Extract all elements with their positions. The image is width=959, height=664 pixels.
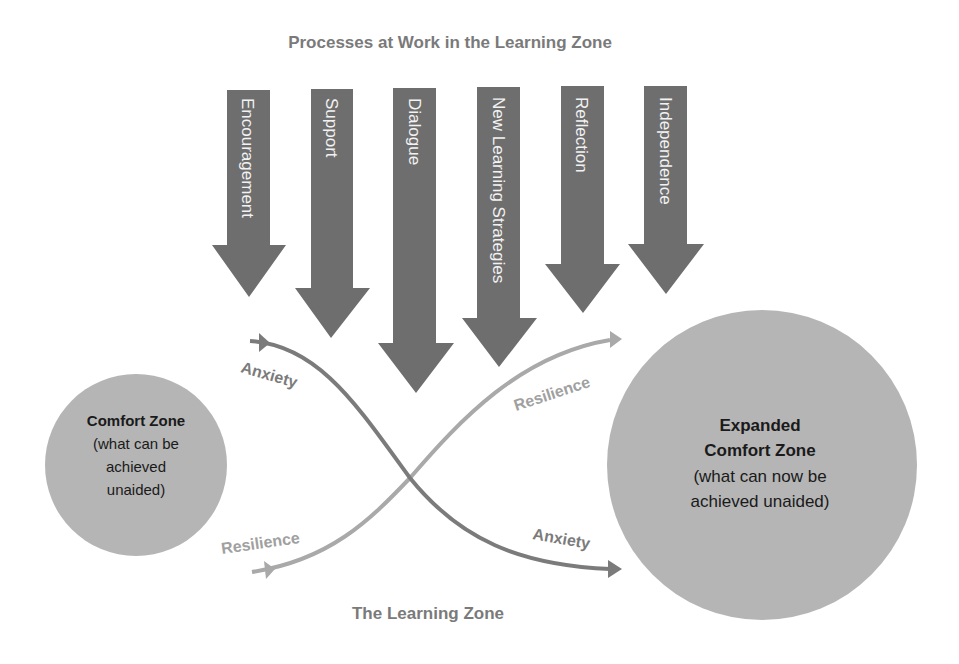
comfort-zone-circle: Comfort Zone (what can be achieved unaid… <box>45 374 227 556</box>
resilience-arrowhead-icon <box>610 331 622 348</box>
process-arrow-independence: Independence <box>628 86 704 294</box>
process-label: Independence <box>656 97 675 205</box>
expanded-zone-desc-1: (what can now be <box>693 467 826 486</box>
process-label: Dialogue <box>405 98 424 165</box>
process-arrow-dialogue: Dialogue <box>378 88 454 393</box>
learning-zone-label: The Learning Zone <box>352 604 504 623</box>
process-label: Encouragement <box>238 98 257 218</box>
process-label: New Learning Strategies <box>489 97 508 283</box>
comfort-zone-desc-1: (what can be <box>93 435 179 452</box>
resilience-start-marker-icon <box>264 561 275 579</box>
process-arrow-reflection: Reflection <box>545 86 620 313</box>
expanded-zone-desc-2: achieved unaided) <box>691 492 830 511</box>
resilience-end-label: Resilience <box>512 373 593 414</box>
resilience-start-label: Resilience <box>220 529 301 557</box>
process-arrow-support: Support <box>295 89 370 338</box>
anxiety-end-label: Anxiety <box>531 525 591 552</box>
expanded-zone-title-1: Expanded <box>719 416 800 435</box>
expanded-comfort-zone-circle: Expanded Comfort Zone (what can now be a… <box>607 310 917 620</box>
anxiety-start-label: Anxiety <box>239 359 299 391</box>
diagram-title: Processes at Work in the Learning Zone <box>288 33 612 52</box>
learning-zone-diagram: Processes at Work in the Learning Zone E… <box>0 0 959 664</box>
anxiety-arrowhead-icon <box>608 560 622 578</box>
comfort-zone-desc-3: unaided) <box>107 481 165 498</box>
process-arrow-new-learning-strategies: New Learning Strategies <box>462 87 537 367</box>
process-label: Support <box>322 98 341 158</box>
comfort-zone-desc-2: achieved <box>106 458 166 475</box>
anxiety-start-marker-icon <box>259 333 270 352</box>
process-arrow-encouragement: Encouragement <box>212 90 286 297</box>
expanded-zone-title-2: Comfort Zone <box>704 441 815 460</box>
comfort-zone-title: Comfort Zone <box>87 412 185 429</box>
process-label: Reflection <box>572 97 591 173</box>
